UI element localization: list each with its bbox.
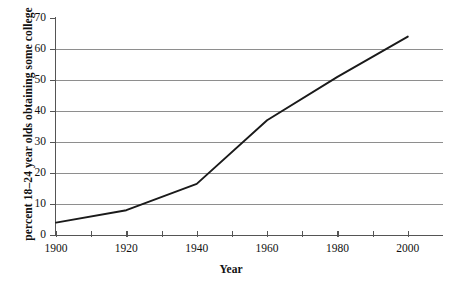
data-series-line [0,0,462,288]
x-axis-title: Year [0,263,462,275]
chart-figure: percent 18–24 year olds obtaining some c… [0,0,462,288]
cropped-caption [0,280,462,288]
